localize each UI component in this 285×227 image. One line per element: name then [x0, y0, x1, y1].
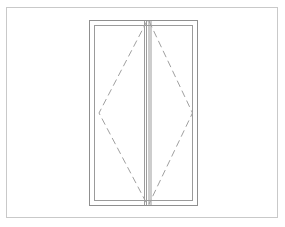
drawing-canvas: [0, 0, 285, 227]
canvas-background: [0, 0, 285, 227]
window-elevation-drawing: Double-leaf window elevation: [0, 0, 285, 227]
